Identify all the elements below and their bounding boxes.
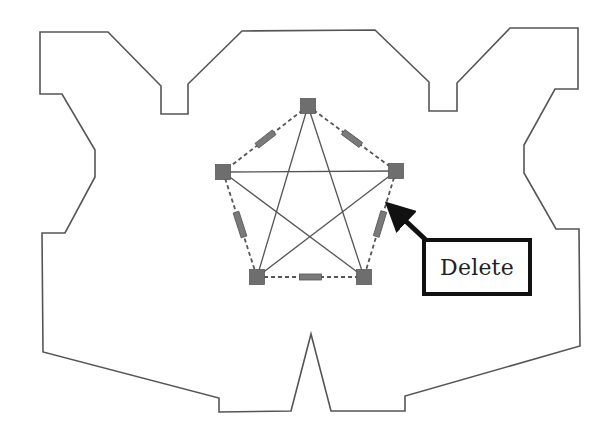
edge-bar-top-right[interactable] <box>341 130 362 148</box>
node-left[interactable] <box>216 165 231 180</box>
diagram-canvas <box>0 0 613 434</box>
solid-edge-top-bottom-right <box>308 106 364 277</box>
delete-label: Delete <box>440 255 514 280</box>
edge-bar-left-bottom-left[interactable] <box>233 211 247 238</box>
node-bottom-left[interactable] <box>250 270 265 285</box>
solid-edge-right-bottom-left <box>257 171 396 277</box>
solid-edge-left-right <box>223 171 396 172</box>
star-solid-edges <box>223 106 396 277</box>
floor-plan-outline <box>40 28 580 412</box>
solid-edge-top-bottom-left <box>257 106 308 277</box>
edge-bar-markers <box>233 130 386 280</box>
edge-bar-bottom-left-bottom-right[interactable] <box>300 274 322 280</box>
node-right[interactable] <box>389 164 404 179</box>
delete-callout-button[interactable]: Delete <box>422 238 532 296</box>
edge-bar-top-left[interactable] <box>255 130 276 148</box>
node-bottom-right[interactable] <box>357 270 372 285</box>
edge-bar-right-bottom-right[interactable] <box>373 211 386 238</box>
node-top[interactable] <box>301 99 316 114</box>
solid-edge-left-bottom-right <box>223 172 364 277</box>
node-group <box>216 99 404 285</box>
